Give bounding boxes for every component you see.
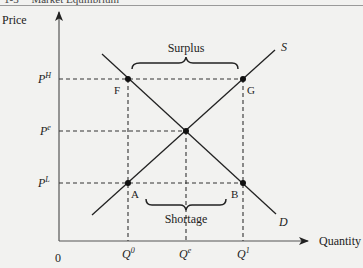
price-equilibrium-label: Pe [39,123,51,138]
surplus-brace [132,57,238,69]
point-b-label: B [231,188,238,200]
point-g-label: G [247,84,255,96]
market-equilibrium-diagram: Price Quantity 0 S D F G A B PH Pe PL Q0 [0,0,363,268]
point-f-dot [125,76,131,82]
supply-label: S [281,40,287,54]
origin-label: 0 [55,251,61,265]
point-b-dot [240,180,246,186]
y-axis-label: Price [2,13,27,27]
point-a-label: A [131,188,139,200]
surplus-label: Surplus [168,41,205,55]
equilibrium-point-dot [183,128,189,134]
price-high-label: PH [37,71,52,86]
price-low-label: PL [37,175,50,190]
shortage-label: Shortage [165,212,208,226]
quantity-qe-label: Qe [179,246,192,261]
point-a-dot [125,180,131,186]
demand-label: D [278,215,288,229]
x-axis-label: Quantity [319,234,361,248]
quantity-q1-label: Q1 [237,246,250,261]
point-f-label: F [114,84,120,96]
point-g-dot [240,76,246,82]
quantity-q0-label: Q0 [122,246,135,261]
